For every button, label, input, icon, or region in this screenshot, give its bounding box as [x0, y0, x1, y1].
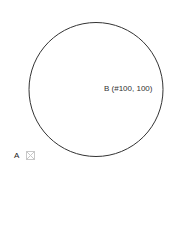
point-a-label: A — [14, 152, 19, 160]
point-b-label: B (#100, 100) — [104, 85, 152, 93]
broken-image-icon — [26, 151, 35, 160]
